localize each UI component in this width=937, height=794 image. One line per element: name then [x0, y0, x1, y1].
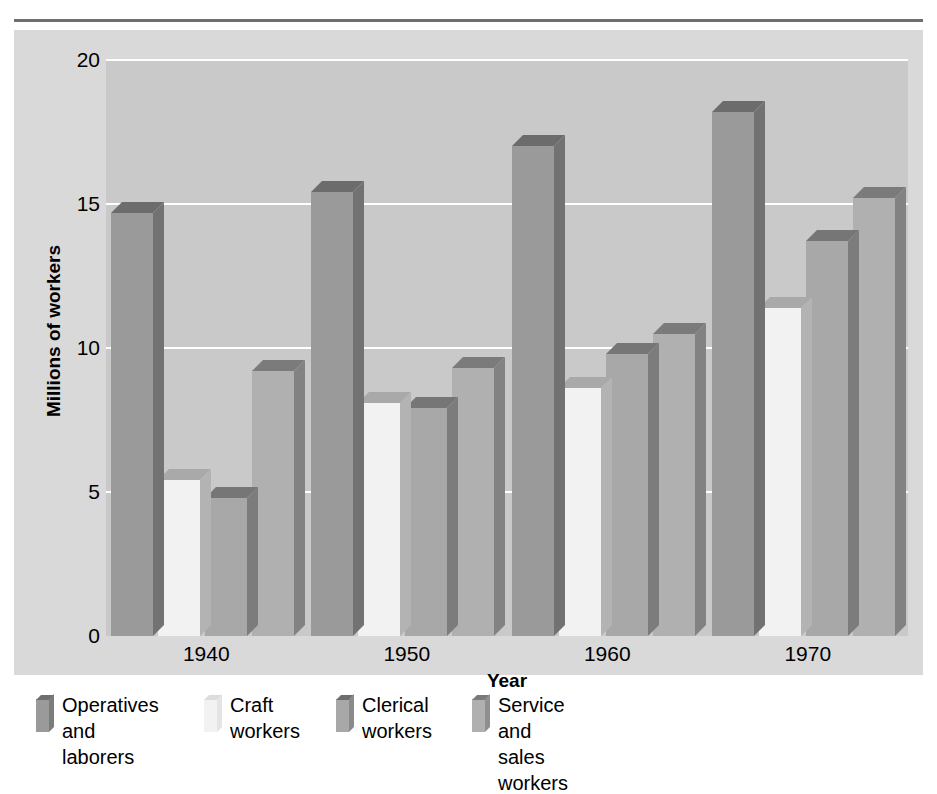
- bar: [311, 192, 353, 636]
- legend-label: Service and sales workers: [498, 692, 568, 794]
- bar-front-face: [158, 480, 200, 636]
- bar: [452, 368, 494, 636]
- bar: [358, 403, 400, 636]
- y-axis-tick-labels: 05101520: [44, 60, 100, 636]
- bar-side-face: [494, 357, 505, 636]
- legend-swatch-face: [472, 699, 485, 732]
- x-axis-tick-label: 1940: [106, 642, 307, 666]
- bar-front-face: [853, 198, 895, 636]
- clipped-caption-above: [0, 0, 937, 8]
- bar-front-face: [111, 213, 153, 636]
- bar: [559, 388, 601, 636]
- legend-swatch-face: [336, 699, 349, 732]
- bar-side-face: [294, 360, 305, 636]
- bar-front-face: [405, 408, 447, 636]
- x-axis-tick-label: 1950: [307, 642, 508, 666]
- bar: [158, 480, 200, 636]
- bar: [205, 498, 247, 636]
- legend-swatch-side: [349, 694, 354, 732]
- legend-swatch-face: [204, 699, 217, 732]
- legend-label: Operatives and laborers: [62, 692, 159, 770]
- bar-front-face: [311, 192, 353, 636]
- bar-side-face: [247, 487, 258, 636]
- bar-side-face: [801, 297, 812, 636]
- plot-area: [106, 60, 908, 636]
- x-axis-tick-labels: 1940195019601970: [106, 642, 908, 670]
- bar-side-face: [447, 397, 458, 636]
- bar-side-face: [601, 377, 612, 636]
- y-axis-tick-label: 20: [60, 49, 100, 70]
- bar: [512, 146, 554, 636]
- chart-legend: Operatives and laborersCraft workersCler…: [14, 690, 923, 750]
- bar: [405, 408, 447, 636]
- bar-front-face: [512, 146, 554, 636]
- bar: [111, 213, 153, 636]
- bar-front-face: [806, 241, 848, 636]
- legend-label: Clerical workers: [362, 692, 432, 744]
- bar-front-face: [759, 308, 801, 636]
- x-axis-tick-label: 1960: [507, 642, 708, 666]
- bar-side-face: [754, 101, 765, 636]
- bar-side-face: [695, 323, 706, 636]
- legend-swatch-side: [49, 694, 54, 732]
- bar: [252, 371, 294, 636]
- legend-swatch: [336, 695, 349, 732]
- legend-swatch-face: [36, 699, 49, 732]
- bar-side-face: [848, 230, 859, 636]
- horizontal-rule: [14, 19, 923, 22]
- bar-side-face: [895, 187, 906, 636]
- bar-front-face: [252, 371, 294, 636]
- bar-side-face: [648, 343, 659, 636]
- bar-front-face: [452, 368, 494, 636]
- bar: [759, 308, 801, 636]
- gridline: [106, 203, 908, 205]
- bar-side-face: [200, 469, 211, 636]
- bar-side-face: [400, 392, 411, 636]
- bar: [853, 198, 895, 636]
- bar: [806, 241, 848, 636]
- legend-swatch: [204, 695, 217, 732]
- y-axis-tick-label: 5: [60, 481, 100, 502]
- x-axis-title: Year: [106, 670, 908, 692]
- bar: [653, 334, 695, 636]
- legend-swatch-side: [485, 694, 490, 732]
- bar-front-face: [606, 354, 648, 636]
- bar: [712, 112, 754, 636]
- y-axis-tick-label: 15: [60, 193, 100, 214]
- legend-swatch-side: [217, 694, 222, 732]
- y-axis-tick-label: 10: [60, 337, 100, 358]
- bar: [606, 354, 648, 636]
- bar-front-face: [205, 498, 247, 636]
- bar-front-face: [712, 112, 754, 636]
- bar-side-face: [153, 202, 164, 636]
- y-axis-tick-label: 0: [60, 625, 100, 646]
- bar-side-face: [554, 135, 565, 636]
- bar-front-face: [358, 403, 400, 636]
- legend-swatch: [36, 695, 49, 732]
- bar-front-face: [559, 388, 601, 636]
- legend-label: Craft workers: [230, 692, 300, 744]
- legend-swatch: [472, 695, 485, 732]
- bar-side-face: [353, 181, 364, 636]
- bar-front-face: [653, 334, 695, 636]
- x-axis-tick-label: 1970: [708, 642, 909, 666]
- gridline: [106, 59, 908, 61]
- chart-panel: Millions of workers 05101520 19401950196…: [14, 30, 923, 675]
